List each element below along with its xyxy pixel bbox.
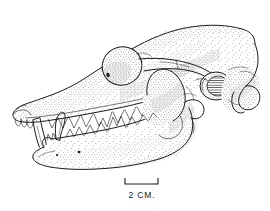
mental-foramen-secondary bbox=[56, 154, 58, 156]
skull-illustration-canvas bbox=[0, 0, 270, 211]
skull-figure: 2 CM. bbox=[0, 0, 270, 211]
mental-foramen bbox=[78, 151, 81, 153]
scale-bar-label: 2 CM. bbox=[106, 190, 178, 200]
